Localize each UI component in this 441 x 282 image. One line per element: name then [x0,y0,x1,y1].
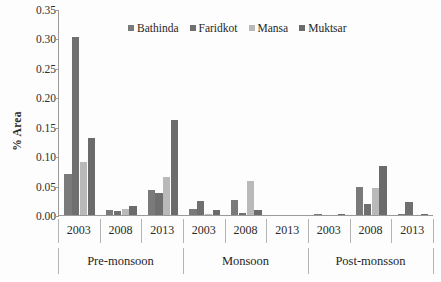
bar-bathinda-2008 [231,200,238,215]
season-separator [308,248,309,274]
year-separator [58,219,59,243]
y-tick-label: 0.35 [20,4,56,16]
year-separator [141,219,142,243]
y-tick-label: 0.25 [20,63,56,75]
legend-label: Bathinda [137,22,179,34]
legend-item-faridkot[interactable]: Faridkot [190,22,238,34]
y-tick-label: 0.05 [20,181,56,193]
legend-swatch-icon [190,25,196,31]
bar-chart-figure: % Area 0.000.050.100.150.200.250.300.35 … [0,0,441,282]
bar-mansa-2013 [163,177,170,215]
plot-area [58,10,433,216]
year-separator [433,219,434,243]
season-label: Post-monsson [308,247,433,275]
chart-legend: BathindaFaridkotMansaMuktsar [128,22,347,34]
legend-swatch-icon [299,25,305,31]
y-tick-mark [54,187,58,188]
y-tick-mark [54,39,58,40]
y-tick-mark [54,10,58,11]
legend-swatch-icon [128,25,134,31]
legend-label: Mansa [258,22,289,34]
bar-muktsar-2013 [171,120,178,215]
bar-faridkot-2008 [114,211,121,215]
bar-faridkot-2003 [197,201,204,215]
bar-bathinda-2003 [64,174,71,215]
year-label: 2003 [308,217,350,243]
year-separator [100,219,101,243]
year-separator [225,219,226,243]
year-label: 2008 [100,217,142,243]
bar-bathinda-2008 [356,187,363,215]
y-tick-mark [54,69,58,70]
year-label: 2013 [141,217,183,243]
bar-bathinda-2008 [106,210,113,215]
season-label: Pre-monsoon [58,247,183,275]
bar-muktsar-2008 [379,166,386,215]
bar-mansa-2003 [205,214,212,215]
bar-series-container [59,9,433,215]
y-tick-label: 0.10 [20,151,56,163]
y-tick-mark [54,128,58,129]
bar-muktsar-2008 [254,210,261,215]
x-axis-year-labels: 200320082013200320082013200320082013 [58,217,433,243]
year-label: 2013 [391,217,433,243]
bar-faridkot-2003 [72,37,79,215]
year-separator [391,219,392,243]
year-separator [183,219,184,243]
bar-muktsar-2003 [338,214,345,215]
year-label: 2003 [58,217,100,243]
bar-mansa-2008 [122,209,129,215]
x-axis-season-labels: Pre-monsoonMonsoonPost-monsson [58,247,433,275]
legend-swatch-icon [249,25,255,31]
bar-mansa-2003 [80,162,87,215]
year-label: 2008 [225,217,267,243]
bar-faridkot-2013 [155,193,162,215]
y-tick-label: 0.15 [20,122,56,134]
year-label: 2008 [350,217,392,243]
legend-item-mansa[interactable]: Mansa [249,22,289,34]
legend-label: Muktsar [308,22,346,34]
bar-bathinda-2013 [148,190,155,215]
x-axis-line [58,215,433,216]
bar-bathinda-2003 [314,214,321,215]
legend-item-muktsar[interactable]: Muktsar [299,22,346,34]
y-tick-label: 0.30 [20,33,56,45]
season-separator [183,248,184,274]
year-separator [350,219,351,243]
bar-muktsar-2013 [421,214,428,215]
bar-bathinda-2003 [189,209,196,215]
year-label: 2003 [183,217,225,243]
legend-label: Faridkot [199,22,238,34]
year-label: 2013 [266,217,308,243]
bar-bathinda-2013 [398,214,405,215]
y-axis-tick-labels: 0.000.050.100.150.200.250.300.35 [20,10,56,216]
bar-faridkot-2013 [405,202,412,215]
bar-muktsar-2003 [213,210,220,215]
y-tick-label: 0.20 [20,92,56,104]
y-tick-mark [54,157,58,158]
season-separator [58,248,59,274]
bar-faridkot-2008 [364,204,371,215]
bar-mansa-2008 [247,181,254,215]
season-label: Monsoon [183,247,308,275]
bar-muktsar-2003 [88,138,95,215]
y-tick-mark [54,98,58,99]
bar-mansa-2008 [372,188,379,215]
bar-faridkot-2008 [239,213,246,215]
bar-muktsar-2008 [129,206,136,215]
season-separator [433,248,434,274]
year-separator [266,219,267,243]
legend-item-bathinda[interactable]: Bathinda [128,22,179,34]
y-tick-label: 0.00 [20,210,56,222]
year-separator [308,219,309,243]
